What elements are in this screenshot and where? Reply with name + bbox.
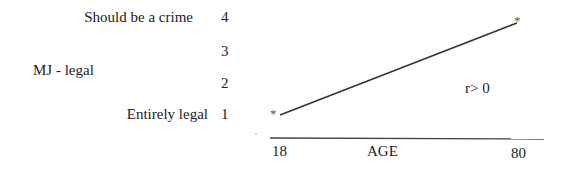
data-point-low-marker: *	[270, 106, 277, 121]
x-tick-80: 80	[511, 146, 526, 161]
x-axis-label: AGE	[367, 144, 398, 159]
data-point-high-marker: *	[514, 13, 521, 28]
x-tick-18: 18	[272, 144, 287, 159]
correlation-annotation: r> 0	[465, 81, 490, 96]
trend-line	[280, 23, 517, 115]
stray-dot	[255, 133, 256, 134]
x-axis-line	[270, 138, 544, 139]
